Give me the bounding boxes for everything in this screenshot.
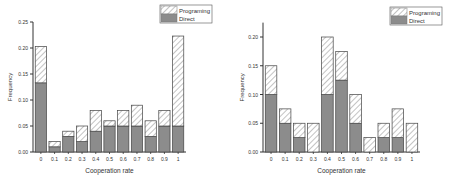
bar-direct: [63, 136, 74, 152]
bar-direct: [76, 142, 87, 152]
bar-0.4: [322, 37, 334, 152]
bar-direct: [322, 95, 334, 153]
x-axis-label: Cooperation rate: [317, 167, 366, 175]
bar-direct: [279, 123, 291, 152]
bar-0.3: [308, 123, 320, 152]
bar-0.1: [49, 142, 60, 152]
bar-programing: [159, 110, 170, 126]
x-tick-label: 0: [39, 156, 42, 162]
x-tick-label: 0.2: [65, 156, 72, 162]
bar-0.3: [76, 126, 87, 152]
y-tick-label: 0.20: [18, 45, 28, 51]
x-tick-label: 1: [177, 156, 180, 162]
x-tick-label: 0.3: [79, 156, 86, 162]
bar-direct: [350, 123, 362, 152]
x-tick-label: 0.7: [366, 156, 373, 162]
bar-direct: [104, 126, 115, 152]
x-tick-label: 0.6: [120, 156, 127, 162]
bar-direct: [90, 131, 101, 152]
bar-programing: [49, 142, 60, 147]
bar-programing: [90, 110, 101, 131]
bar-direct: [378, 138, 390, 152]
x-tick-label: 0.4: [324, 156, 331, 162]
bar-0.6: [118, 110, 129, 152]
bar-0.2: [63, 131, 74, 152]
y-tick-label: 0.00: [18, 149, 28, 155]
bar-0.9: [159, 110, 170, 152]
y-tick-label: 0.15: [18, 71, 28, 77]
legend-swatch-programing: [391, 8, 407, 16]
bar-direct: [159, 126, 170, 152]
x-tick-label: 0.9: [161, 156, 168, 162]
x-tick-label: 0.2: [296, 156, 303, 162]
bar-programing: [104, 121, 115, 126]
bar-0.9: [392, 109, 404, 152]
legend-label-direct: Direct: [409, 18, 425, 24]
x-axis-label: Cooperation rate: [85, 167, 134, 175]
x-tick-label: 0.3: [310, 156, 317, 162]
bar-programing: [63, 131, 74, 136]
bar-0.1: [279, 109, 291, 152]
bar-direct: [35, 83, 46, 152]
x-tick-label: 0.5: [106, 156, 113, 162]
bar-0: [35, 46, 46, 152]
x-tick-label: 0.8: [380, 156, 387, 162]
bar-0.8: [145, 121, 156, 152]
x-tick-label: 1: [411, 156, 414, 162]
bar-programing: [145, 121, 156, 137]
bar-0.8: [378, 123, 390, 152]
bar-programing: [364, 138, 376, 152]
bar-direct: [173, 126, 184, 152]
bar-direct: [392, 138, 404, 152]
legend-swatch-programing: [161, 6, 177, 14]
legend-label-programing: Programing: [179, 8, 210, 14]
bar-programing: [265, 66, 277, 95]
bar-programing: [76, 126, 87, 142]
bar-0.2: [293, 123, 305, 152]
bar-0.6: [350, 95, 362, 153]
legend-label-direct: Direct: [179, 16, 195, 22]
bar-programing: [350, 95, 362, 124]
y-tick-label: 0.10: [248, 92, 258, 98]
bar-1: [173, 36, 184, 152]
bar-programing: [131, 105, 142, 126]
bar-programing: [406, 123, 418, 152]
x-tick-label: 0.6: [352, 156, 359, 162]
x-tick-label: 0.4: [92, 156, 99, 162]
bar-programing: [336, 51, 348, 80]
bar-direct: [118, 126, 129, 152]
legend: ProgramingDirect: [160, 5, 212, 23]
bar-direct: [293, 138, 305, 152]
y-tick-label: 0.05: [18, 123, 28, 129]
bar-0: [265, 66, 277, 152]
x-tick-label: 0.7: [133, 156, 140, 162]
bar-programing: [173, 36, 184, 126]
bar-0.7: [364, 138, 376, 152]
y-axis-label: Frequency: [239, 73, 245, 101]
right-chart: 0.000.050.100.150.2000.10.20.30.40.50.60…: [239, 7, 442, 175]
bar-direct: [145, 136, 156, 152]
x-tick-label: 0.8: [147, 156, 154, 162]
legend: ProgramingDirect: [390, 7, 442, 25]
y-tick-label: 0.20: [248, 34, 258, 40]
bar-programing: [118, 110, 129, 126]
legend-swatch-direct: [161, 14, 177, 22]
x-tick-label: 0.1: [51, 156, 58, 162]
left-chart: 0.000.050.100.150.200.2500.10.20.30.40.5…: [7, 5, 212, 175]
figure: 0.000.050.100.150.200.2500.10.20.30.40.5…: [0, 0, 449, 181]
bar-0.4: [90, 110, 101, 152]
y-tick-label: 0.05: [248, 120, 258, 126]
y-tick-label: 0.00: [248, 149, 258, 155]
y-tick-label: 0.25: [18, 19, 28, 25]
legend-swatch-direct: [391, 16, 407, 24]
bar-programing: [293, 123, 305, 137]
y-tick-label: 0.10: [18, 97, 28, 103]
bar-programing: [392, 109, 404, 138]
bar-programing: [279, 109, 291, 123]
legend-label-programing: Programing: [409, 10, 440, 16]
bar-programing: [308, 123, 320, 152]
x-tick-label: 0: [270, 156, 273, 162]
bar-programing: [35, 46, 46, 82]
bar-0.7: [131, 105, 142, 152]
bar-0.5: [336, 51, 348, 152]
